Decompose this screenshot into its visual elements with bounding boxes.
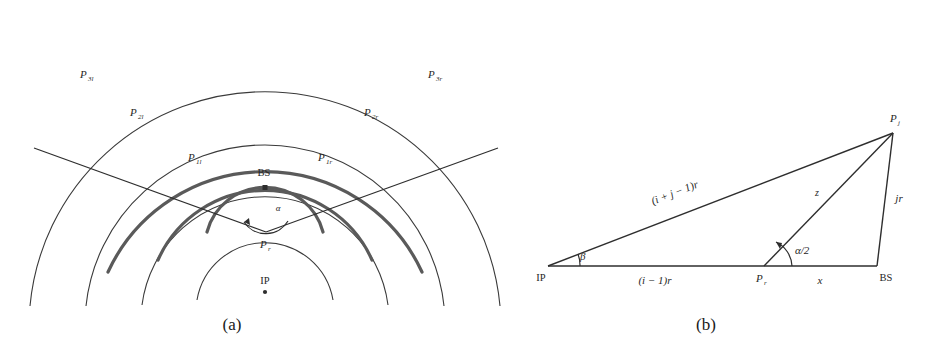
p1l-label-base: P — [187, 151, 195, 163]
panel-b-caption: (b) — [696, 315, 716, 334]
panel-b-pr-label-base: P — [755, 272, 763, 284]
side-vertical-label: jr — [893, 192, 903, 204]
p3r-label-sub: 3r — [435, 75, 443, 83]
alpha-label: α — [276, 203, 281, 213]
ip-label: IP — [260, 275, 269, 286]
p1r-label-sub: 1r — [326, 158, 333, 166]
figure-container: BS IP α P r P 1l P 2l P 3l P 1r P 2r P — [0, 0, 942, 354]
beta-label: β — [579, 250, 586, 262]
ip-marker — [263, 290, 267, 294]
p3l-label-sub: 3l — [87, 75, 94, 83]
side-slant-label: z — [814, 187, 819, 198]
p2r-label-base: P — [363, 106, 371, 118]
side-base-right-label: x — [817, 274, 823, 286]
alpha-half-label: α/2 — [795, 244, 810, 256]
panel-b-ip-label: IP — [536, 272, 545, 283]
p3r-label-base: P — [427, 68, 435, 80]
bs-marker — [263, 185, 268, 190]
p1r-label-base: P — [317, 151, 325, 163]
p2l-label-sub: 2l — [138, 113, 144, 121]
panel-b-pj-label-sub: j — [897, 119, 900, 127]
p2r-label-sub: 2r — [372, 113, 379, 121]
p3l-label-base: P — [79, 68, 87, 80]
panel-b-pj-label-base: P — [889, 112, 897, 124]
figure-svg: BS IP α P r P 1l P 2l P 3l P 1r P 2r P — [0, 0, 942, 354]
pr-label-sub: r — [268, 245, 271, 253]
panel-a-caption: (a) — [223, 315, 242, 334]
panel-b-bs-label: BS — [880, 272, 893, 283]
p2l-label-base: P — [129, 106, 137, 118]
panel-b-pr-label-sub: r — [764, 279, 767, 287]
pr-label-base: P — [259, 238, 267, 250]
bs-label: BS — [258, 167, 271, 178]
figure-background — [0, 0, 942, 354]
p1l-label-sub: 1l — [196, 158, 202, 166]
side-base-left-label: (i − 1)r — [638, 274, 672, 287]
